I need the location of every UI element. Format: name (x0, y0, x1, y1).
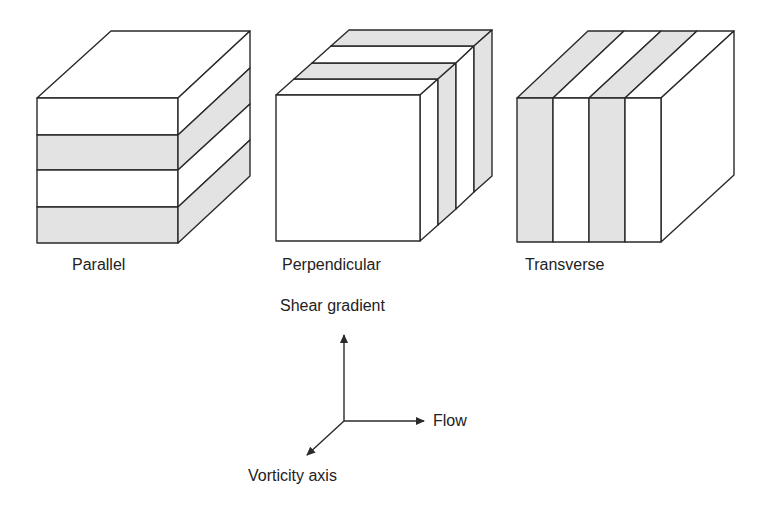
vorticity-axis-label: Vorticity axis (248, 468, 337, 484)
shear-gradient-label: Shear gradient (280, 298, 385, 314)
parallel-label: Parallel (72, 257, 125, 273)
transverse-cube (517, 31, 734, 242)
perpendicular-cube (276, 30, 492, 241)
perpendicular-label: Perpendicular (282, 257, 381, 273)
vorticity-arrow (307, 421, 344, 455)
flow-label: Flow (433, 413, 467, 429)
coordinate-axes (307, 335, 424, 455)
parallel-cube (37, 31, 250, 243)
transverse-label: Transverse (525, 257, 604, 273)
